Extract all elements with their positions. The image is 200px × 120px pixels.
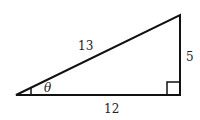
angle-label: θ [44,81,52,95]
opposite-label: 5 [186,50,194,64]
hypotenuse-label: 13 [78,39,93,53]
right-angle-marker [167,82,180,95]
triangle-diagram: 13 5 12 θ [0,0,200,120]
triangle [16,15,180,95]
adjacent-label: 12 [104,102,119,116]
